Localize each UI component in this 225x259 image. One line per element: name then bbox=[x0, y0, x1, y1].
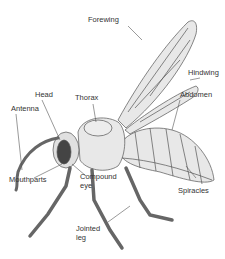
label-antenna: Antenna bbox=[11, 104, 39, 113]
wasp-illustration bbox=[0, 0, 225, 259]
compound-eye bbox=[57, 140, 71, 164]
label-forewing: Forewing bbox=[88, 15, 119, 24]
hind-leg bbox=[126, 168, 172, 220]
label-compound-eye-text: Compound eye bbox=[80, 172, 117, 190]
label-thorax: Thorax bbox=[75, 93, 98, 102]
label-abdomen: Abdomen bbox=[180, 90, 212, 99]
label-mouthparts: Mouthparts bbox=[9, 175, 47, 184]
label-head: Head bbox=[35, 90, 53, 99]
label-jointed-leg: Jointed leg bbox=[76, 224, 104, 242]
label-jointed-leg-text: Jointed leg bbox=[76, 224, 100, 242]
label-hindwing: Hindwing bbox=[188, 68, 219, 77]
abdomen bbox=[118, 128, 214, 182]
label-spiracles: Spiracles bbox=[178, 186, 209, 195]
label-compound-eye: Compound eye bbox=[80, 172, 120, 190]
